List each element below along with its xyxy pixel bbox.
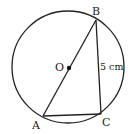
- label-b: B: [92, 5, 100, 18]
- chord-ac: [43, 114, 101, 116]
- circle-diagram: B A C O 5 cm: [0, 0, 136, 134]
- label-c: C: [102, 116, 110, 129]
- label-bc-length: 5 cm: [100, 61, 123, 72]
- label-o: O: [55, 61, 64, 74]
- label-a: A: [31, 119, 41, 132]
- center-point: [67, 66, 71, 70]
